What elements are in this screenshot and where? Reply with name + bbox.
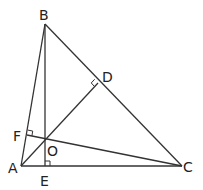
point-label-e: E	[40, 173, 49, 189]
point-label-c: C	[183, 159, 193, 175]
point-labels: ABCDEFO	[8, 7, 193, 189]
point-label-d: D	[102, 69, 113, 85]
point-label-a: A	[8, 160, 18, 176]
side-bc	[45, 24, 182, 166]
right-angle-mark-d	[91, 79, 94, 86]
point-label-f: F	[13, 128, 21, 144]
point-label-o: O	[47, 143, 58, 159]
right-angle-mark-e	[45, 161, 50, 166]
point-label-b: B	[39, 7, 49, 23]
triangle-diagram: ABCDEFO	[0, 0, 203, 190]
segments	[21, 24, 182, 166]
